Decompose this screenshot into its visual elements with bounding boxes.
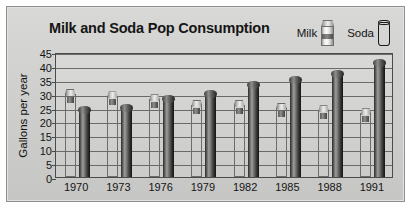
soda-can-cap <box>378 20 390 25</box>
y-axis-label: 35 <box>40 76 52 88</box>
y-axis-label: 30 <box>40 90 52 102</box>
bar-milk <box>191 105 202 177</box>
bar-milk <box>276 108 287 177</box>
y-axis-label: 25 <box>40 104 52 116</box>
soda-can-cap <box>289 76 302 84</box>
y-axis-label: 40 <box>40 62 52 74</box>
x-axis-label: 1982 <box>225 181 265 193</box>
legend-item-milk: Milk <box>297 20 334 46</box>
soda-can-cap <box>78 106 91 114</box>
bar-soda <box>290 80 301 177</box>
x-axis-label: 1970 <box>56 181 96 193</box>
bar-milk <box>107 96 118 177</box>
y-axis-label: 45 <box>40 48 52 60</box>
soda-can-body <box>378 22 390 46</box>
y-axis-tick <box>52 179 56 180</box>
milk-carton-band <box>278 111 285 117</box>
bar-soda <box>248 85 259 177</box>
y-axis-label: 15 <box>40 131 52 143</box>
x-axis-label: 1979 <box>183 181 223 193</box>
bar-soda <box>79 110 90 177</box>
legend-item-soda: Soda <box>347 20 390 46</box>
bar-milk <box>360 113 371 177</box>
legend-label-milk: Milk <box>297 27 317 39</box>
bar-soda <box>332 74 343 177</box>
milk-carton-band <box>322 34 333 39</box>
legend-label-soda: Soda <box>347 27 374 39</box>
soda-can-cap <box>120 104 133 112</box>
soda-can-cap <box>331 70 344 78</box>
bar-milk <box>318 110 329 177</box>
milk-carton-top <box>234 100 245 107</box>
soda-can-cap <box>247 81 260 89</box>
y-axis-label: 0 <box>46 173 52 185</box>
milk-carton-band <box>362 116 369 122</box>
bar-soda <box>205 94 216 177</box>
bar-soda <box>163 99 174 177</box>
milk-carton-icon <box>321 20 334 46</box>
milk-carton-band <box>151 102 158 108</box>
milk-carton-band <box>236 108 243 114</box>
milk-carton-top <box>65 89 76 96</box>
plot-area: 454035302520151050 <box>55 53 393 178</box>
bar-milk <box>234 105 245 177</box>
chart-title: Milk and Soda Pop Consumption <box>49 20 270 36</box>
milk-carton-top <box>149 94 160 101</box>
milk-carton-top <box>276 103 287 110</box>
bar-milk <box>149 99 160 177</box>
x-axis-label: 1991 <box>352 181 392 193</box>
soda-can-cap <box>162 95 175 103</box>
x-axis-label: 1976 <box>141 181 181 193</box>
milk-carton-top <box>107 91 118 98</box>
bar-soda <box>374 63 385 177</box>
milk-carton-top <box>360 108 371 115</box>
bar-soda <box>121 108 132 177</box>
chart-legend: Milk Soda <box>297 20 390 46</box>
y-axis-label: 20 <box>40 117 52 129</box>
milk-carton-band <box>67 97 74 103</box>
bar-series-container <box>56 54 392 177</box>
y-axis-label: 10 <box>40 145 52 157</box>
milk-carton-top <box>191 100 202 107</box>
milk-carton-band <box>109 99 116 105</box>
x-axis-label: 1988 <box>310 181 350 193</box>
y-axis-label: 5 <box>46 159 52 171</box>
milk-carton-band <box>320 113 327 119</box>
x-axis-label: 1985 <box>267 181 307 193</box>
chart-frame: Milk and Soda Pop Consumption Milk Soda … <box>6 6 405 202</box>
x-axis-label: 1973 <box>98 181 138 193</box>
milk-carton-top <box>318 105 329 112</box>
bar-milk <box>65 94 76 177</box>
soda-can-icon <box>378 20 390 46</box>
milk-carton-band <box>193 108 200 114</box>
soda-can-cap <box>204 90 217 98</box>
y-axis-title: Gallons per year <box>17 53 31 178</box>
soda-can-cap <box>373 59 386 67</box>
